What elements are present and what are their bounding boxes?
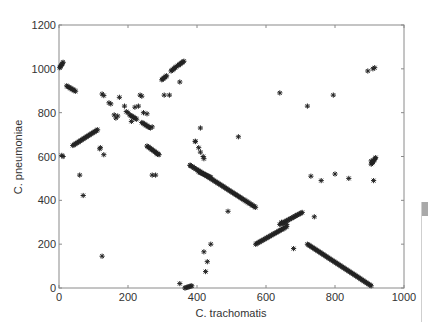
y-tick-label: 1000 <box>32 63 56 75</box>
y-tick-label: 600 <box>38 151 56 163</box>
data-point <box>117 95 122 100</box>
data-point <box>188 163 193 168</box>
data-point <box>139 94 144 99</box>
data-point <box>61 60 66 65</box>
data-point <box>203 269 208 274</box>
data-point <box>61 154 66 159</box>
data-point <box>198 125 203 130</box>
data-point <box>319 178 324 183</box>
x-axis-label: C. trachomatis <box>196 307 267 319</box>
data-point <box>277 90 282 95</box>
x-tick-label: 200 <box>119 291 137 303</box>
y-tick-label: 400 <box>38 194 56 206</box>
y-tick-label: 0 <box>50 282 56 294</box>
data-point <box>150 124 155 129</box>
data-point <box>81 193 86 198</box>
data-point <box>144 111 149 116</box>
data-point <box>312 214 317 219</box>
data-point <box>370 159 375 164</box>
data-point <box>346 176 351 181</box>
y-axis-label: C. pneumoniae <box>12 120 24 195</box>
data-point <box>291 246 296 251</box>
data-point <box>181 59 186 64</box>
data-point <box>205 259 210 264</box>
data-point <box>125 110 130 115</box>
x-tick-label: 0 <box>56 291 62 303</box>
data-point <box>284 222 289 227</box>
data-point <box>153 173 158 178</box>
data-point <box>193 139 198 144</box>
data-point <box>308 174 313 179</box>
data-point <box>167 93 172 98</box>
data-point <box>164 73 169 78</box>
data-point <box>331 93 336 98</box>
data-point <box>198 150 203 155</box>
data-point <box>129 119 134 124</box>
data-point <box>101 93 106 98</box>
data-point <box>332 171 337 176</box>
data-point <box>371 178 376 183</box>
x-tick-label: 400 <box>188 291 206 303</box>
data-point <box>108 101 113 106</box>
data-point <box>208 242 213 247</box>
y-tick-label: 200 <box>38 238 56 250</box>
data-point <box>134 117 139 122</box>
data-point <box>73 89 78 94</box>
data-point <box>372 65 377 70</box>
y-tick-label: 800 <box>38 107 56 119</box>
side-scroll-strip <box>421 202 428 322</box>
data-point <box>177 79 182 84</box>
data-point <box>177 281 182 286</box>
side-strip-cap <box>422 202 428 216</box>
x-tick-label: 800 <box>326 291 344 303</box>
x-tick-label: 1000 <box>392 291 416 303</box>
data-point <box>225 209 230 214</box>
data-point <box>122 104 127 109</box>
data-point <box>113 116 118 121</box>
data-point <box>369 283 374 288</box>
data-point <box>253 205 258 210</box>
plot-area <box>59 25 404 288</box>
data-point <box>201 156 206 161</box>
data-point <box>201 249 206 254</box>
data-point <box>95 127 100 132</box>
data-point <box>236 134 241 139</box>
data-point <box>305 104 310 109</box>
data-point <box>101 152 106 157</box>
data-point <box>365 68 370 73</box>
data-point <box>162 93 167 98</box>
data-point <box>100 254 105 259</box>
data-point <box>97 146 102 151</box>
data-point <box>155 152 160 157</box>
x-tick-label: 600 <box>257 291 275 303</box>
data-point <box>300 210 305 215</box>
data-point <box>208 175 213 180</box>
data-point <box>77 173 82 178</box>
y-tick-label: 1200 <box>32 19 56 31</box>
data-point <box>136 104 141 109</box>
data-point <box>373 155 378 160</box>
data-point <box>189 283 194 288</box>
